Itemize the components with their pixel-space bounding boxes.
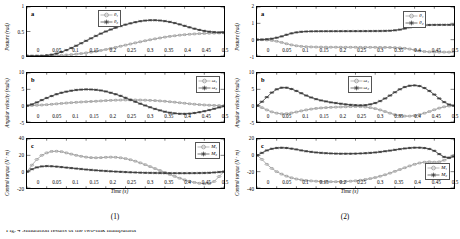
panel-2b: Angular velocity (rad/s) ω₁ω₂ -5051000.0… (230, 70, 460, 136)
x-tick-label: 0.4 (184, 113, 190, 119)
y-axis-label-torque-2: Control torque (N · m) (231, 136, 242, 210)
legend-entry: θ₁ (100, 12, 118, 18)
legend-label: ω₁ (364, 78, 369, 84)
x-tick-label: 0.25 (127, 179, 136, 185)
x-tick-label: 0.05 (52, 47, 61, 53)
x-tick-label: 0.05 (282, 47, 291, 53)
legend-marker-icon (405, 13, 418, 19)
x-tick-label: 0.35 (164, 47, 173, 53)
legend-label: M₁ (441, 165, 447, 171)
panel-letter-1c: c (31, 142, 34, 149)
x-tick-label: 0.3 (147, 179, 153, 185)
x-tick-label: 0 (267, 113, 270, 119)
x-tick-label: 0.25 (357, 47, 366, 53)
x-tick-label: 0.2 (340, 179, 346, 185)
x-tick-label: 0.05 (52, 179, 61, 185)
x-tick-label: 0.05 (282, 179, 291, 185)
y-tick-label: 0 (251, 37, 255, 43)
legend-marker-icon (427, 165, 440, 171)
x-tick-label: 0.5 (222, 179, 228, 185)
x-tick-label: 0.2 (110, 179, 116, 185)
x-tick-label: 0.15 (90, 113, 99, 119)
legend-marker-icon (350, 85, 363, 91)
legend-entry: ω₁ (350, 78, 369, 84)
figure-page: Posture (rad) θ₁θ₂ 00.5100.050.10.150.20… (0, 0, 460, 239)
legend-label: M₂ (211, 151, 217, 157)
x-tick-row: 00.050.10.150.20.250.30.350.40.450.5 (38, 179, 225, 188)
x-tick-label: 0.4 (414, 47, 420, 53)
panel-1a: Posture (rad) θ₁θ₂ 00.5100.050.10.150.20… (0, 4, 230, 70)
y-tick-label: -20 (17, 186, 25, 192)
x-tick-label: 0.1 (72, 113, 78, 119)
legend-2b[interactable]: ω₁ω₂ (348, 76, 372, 93)
legend-marker-icon (100, 19, 113, 25)
legend-label: θ₁ (114, 12, 118, 18)
x-tick-label: 0.3 (377, 113, 383, 119)
legend-entry: M₁ (427, 165, 447, 171)
y-tick-label: 20 (19, 152, 25, 158)
y-tick-label: 10 (19, 69, 25, 75)
y-tick-label: 0 (21, 103, 25, 109)
legend-marker-icon (427, 172, 440, 178)
y-tick-label: 0.5 (18, 29, 25, 35)
x-tick-row: 00.050.10.150.20.250.30.350.40.450.5 (268, 179, 455, 188)
x-tick-label: 0.5 (452, 47, 458, 53)
legend-label: θ₁ (419, 13, 423, 19)
y-tick-label: 0 (21, 54, 25, 60)
y-axis-label-velocity-2: Angular velocity (rad/s) (231, 70, 242, 136)
x-tick-label: 0.35 (394, 47, 403, 53)
legend-entry: θ₁ (405, 13, 423, 19)
legend-label: ω₂ (364, 85, 369, 91)
legend-entry: M₂ (427, 172, 447, 178)
x-tick-label: 0.35 (394, 113, 403, 119)
y-tick-label: 5 (251, 86, 255, 92)
figure-caption-cropped: Fig. 4 Simulation results of the two-lin… (6, 230, 454, 239)
legend-label: θ₂ (419, 20, 423, 26)
x-tick-label: 0.15 (90, 179, 99, 185)
x-tick-label: 0.45 (202, 179, 211, 185)
panel-letter-2b: b (261, 76, 265, 83)
x-tick-row: 00.050.10.150.20.250.30.350.40.450.5 (268, 113, 455, 122)
panel-letter-2c: c (261, 142, 264, 149)
y-tick-label: -40 (247, 186, 255, 192)
panel-letter-1b: b (31, 76, 35, 83)
x-tick-label: 0.45 (432, 179, 441, 185)
legend-1a[interactable]: θ₁θ₂ (98, 10, 121, 27)
x-tick-label: 0.35 (394, 179, 403, 185)
legend-1c[interactable]: M₁M₂ (195, 142, 220, 159)
x-axis-label-2: Time (s) (242, 188, 457, 194)
y-tick-label: 0 (251, 103, 255, 109)
x-tick-row: 00.050.10.150.20.250.30.350.40.450.5 (38, 113, 225, 122)
x-tick-label: 0.1 (302, 47, 308, 53)
x-tick-row: 00.050.10.150.20.250.30.350.40.450.5 (38, 47, 225, 56)
legend-marker-icon (198, 78, 211, 84)
legend-2a[interactable]: θ₁θ₂ (403, 11, 426, 28)
x-axis-label-1: Time (s) (12, 188, 227, 194)
x-tick-label: 0.3 (147, 113, 153, 119)
x-tick-label: 0.4 (414, 179, 420, 185)
legend-marker-icon (197, 144, 210, 150)
legend-label: M₁ (211, 144, 217, 150)
x-tick-label: 0.35 (164, 179, 173, 185)
y-tick-label: 0 (251, 152, 255, 158)
y-axis-label-velocity-1: Angular velocity (rad/s) (1, 70, 12, 136)
x-tick-label: 0.45 (202, 47, 211, 53)
y-tick-label: 40 (19, 135, 25, 141)
y-tick-label: 5 (21, 86, 25, 92)
y-tick-label: -20 (247, 169, 255, 175)
legend-marker-icon (405, 20, 418, 26)
subfigure-2: Posture (rad) θ₁θ₂ -101200.050.10.150.20… (230, 0, 460, 239)
x-tick-label: 0.1 (302, 113, 308, 119)
legend-2c[interactable]: M₁M₂ (425, 163, 450, 180)
x-tick-label: 0.2 (340, 113, 346, 119)
x-tick-label: 0.15 (320, 113, 329, 119)
legend-label: ω₁ (212, 78, 217, 84)
subfigure-1: Posture (rad) θ₁θ₂ 00.5100.050.10.150.20… (0, 0, 230, 239)
x-tick-label: 0 (37, 47, 40, 53)
legend-entry: M₂ (197, 151, 217, 157)
x-tick-label: 0.25 (127, 47, 136, 53)
panel-letter-1a: a (31, 10, 34, 17)
x-tick-label: 0.15 (90, 47, 99, 53)
legend-1b[interactable]: ω₁ω₂ (196, 76, 220, 93)
x-tick-label: 0.4 (414, 113, 420, 119)
